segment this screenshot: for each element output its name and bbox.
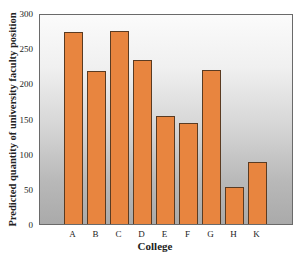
bar-A <box>64 32 83 225</box>
x-tick-label: K <box>247 229 266 239</box>
bar-C <box>110 31 129 224</box>
x-tick-label: A <box>63 229 82 239</box>
bar-B <box>87 71 106 224</box>
bar-D <box>133 60 152 224</box>
bar-K <box>248 162 267 224</box>
y-axis-label: Predicted quantity of university faculty… <box>7 10 18 230</box>
x-tick-label: G <box>201 229 220 239</box>
x-tick-label: C <box>109 229 128 239</box>
plot-area <box>39 14 293 225</box>
x-tick-label: H <box>224 229 243 239</box>
x-tick-label: E <box>155 229 174 239</box>
bar-F <box>179 123 198 225</box>
x-tick-label: D <box>132 229 151 239</box>
bar-E <box>156 116 175 225</box>
x-axis-label: College <box>130 240 180 252</box>
bar-G <box>202 70 221 224</box>
x-tick-label: F <box>178 229 197 239</box>
x-tick-label: B <box>86 229 105 239</box>
bar-H <box>225 187 244 224</box>
